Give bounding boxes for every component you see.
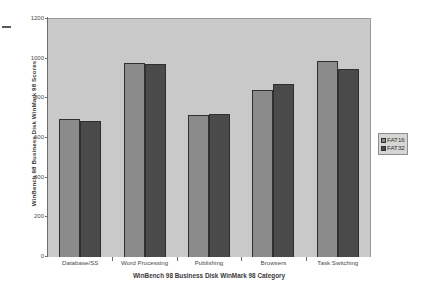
y-axis-tick-label: 800 bbox=[26, 94, 44, 100]
bar-group bbox=[177, 19, 241, 257]
plot-area bbox=[48, 18, 371, 257]
legend-label: FAT32 bbox=[387, 144, 405, 152]
bar-fat16-task-switching bbox=[317, 61, 338, 257]
y-axis-tick-label: 0 bbox=[26, 253, 44, 259]
x-axis-tick-label: Database/SS bbox=[48, 259, 112, 266]
bar-fat16-publishing bbox=[188, 115, 209, 257]
bar-fat16-database-ss bbox=[59, 119, 80, 257]
x-axis-tick-label: Task Switching bbox=[306, 259, 370, 266]
y-axis-tick-label: 400 bbox=[26, 174, 44, 180]
bar-fat32-publishing bbox=[209, 114, 230, 257]
corner-artifact-mark bbox=[2, 26, 11, 28]
bar-groups bbox=[48, 19, 370, 257]
bar-fat32-task-switching bbox=[338, 69, 359, 257]
bar-fat32-browsers bbox=[273, 84, 294, 257]
x-axis-tick-label: Word Processing bbox=[112, 259, 176, 266]
chart-legend: FAT16FAT32 bbox=[378, 133, 408, 155]
x-axis-tick-labels: Database/SSWord ProcessingPublishingBrow… bbox=[48, 259, 370, 266]
y-axis-tick-label: 200 bbox=[26, 213, 44, 219]
legend-label: FAT16 bbox=[387, 136, 405, 144]
bar-fat16-browsers bbox=[252, 90, 273, 257]
x-axis-title: WinBench 98 Business Disk WinMark 98 Cat… bbox=[48, 272, 370, 279]
chart-figure: WinBench 98 Business Disk WinMark 98 Sco… bbox=[0, 0, 429, 294]
x-axis-tick-label: Publishing bbox=[177, 259, 241, 266]
bar-fat16-word-processing bbox=[124, 63, 145, 257]
y-axis-tick-labels: 120010008006004002000 bbox=[26, 14, 44, 256]
y-axis-tick-label: 600 bbox=[26, 134, 44, 140]
legend-swatch-icon bbox=[381, 146, 386, 151]
bar-fat32-database-ss bbox=[80, 121, 101, 257]
bar-fat32-word-processing bbox=[145, 64, 166, 257]
bar-group bbox=[306, 19, 370, 257]
y-axis-tick-label: 1000 bbox=[26, 55, 44, 61]
x-axis-tick-label: Browsers bbox=[241, 259, 305, 266]
legend-item-fat16: FAT16 bbox=[380, 136, 405, 144]
bar-group bbox=[48, 19, 112, 257]
legend-swatch-icon bbox=[381, 138, 386, 143]
legend-item-fat32: FAT32 bbox=[380, 144, 405, 152]
bar-group bbox=[241, 19, 305, 257]
y-axis-tick-label: 1200 bbox=[26, 15, 44, 21]
bar-group bbox=[112, 19, 176, 257]
